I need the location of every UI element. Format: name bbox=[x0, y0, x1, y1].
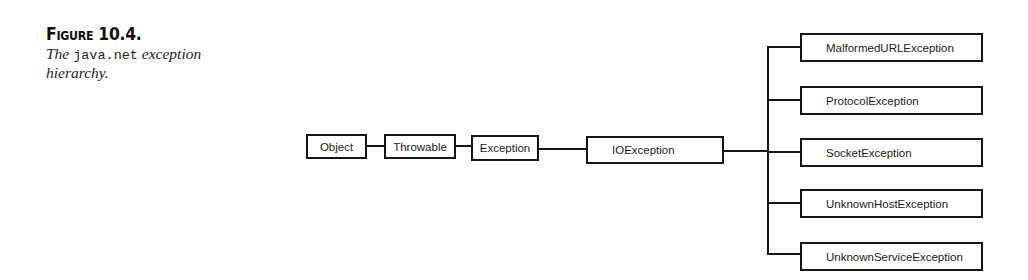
node-unknownserviceexception: UnknownServiceException bbox=[800, 242, 983, 271]
figure-description: The java.net exception hierarchy. bbox=[46, 45, 266, 81]
node-malformed-label: MalformedURLException bbox=[826, 42, 954, 54]
node-unknownservice-label: UnknownServiceException bbox=[826, 251, 963, 263]
node-exception-label: Exception bbox=[480, 142, 531, 154]
node-ioexception-label: IOException bbox=[612, 144, 675, 156]
figure-title: Figure 10.4. bbox=[46, 24, 248, 44]
desc-suffix: exception bbox=[142, 45, 201, 62]
connector-exception-ioexception bbox=[538, 148, 586, 150]
node-unknownhostexception: UnknownHostException bbox=[800, 189, 983, 218]
node-protocolexception: ProtocolException bbox=[800, 86, 983, 115]
desc-line2: hierarchy. bbox=[46, 64, 109, 81]
node-throwable: Throwable bbox=[384, 134, 456, 159]
node-socketexception: SocketException bbox=[800, 138, 983, 167]
desc-prefix: The bbox=[46, 45, 69, 62]
branch-socket bbox=[767, 151, 800, 153]
connector-object-throwable bbox=[366, 145, 384, 147]
branch-unknownhost bbox=[767, 202, 800, 204]
node-throwable-label: Throwable bbox=[393, 141, 447, 153]
node-exception: Exception bbox=[471, 135, 539, 161]
desc-code: java.net bbox=[73, 48, 138, 63]
connector-ioexception-trunk bbox=[723, 150, 769, 152]
node-socket-label: SocketException bbox=[826, 147, 912, 159]
node-protocol-label: ProtocolException bbox=[826, 95, 919, 107]
node-malformedurlexception: MalformedURLException bbox=[800, 33, 983, 62]
node-unknownhost-label: UnknownHostException bbox=[826, 198, 948, 210]
branch-protocol bbox=[767, 99, 800, 101]
branch-unknownservice bbox=[767, 253, 800, 255]
branch-malformed bbox=[767, 46, 800, 48]
node-object-label: Object bbox=[320, 141, 353, 153]
figure-caption: Figure 10.4. The java.net exception hier… bbox=[46, 24, 266, 81]
connector-throwable-exception bbox=[455, 145, 471, 147]
node-ioexception: IOException bbox=[586, 136, 724, 164]
node-object: Object bbox=[306, 134, 367, 159]
